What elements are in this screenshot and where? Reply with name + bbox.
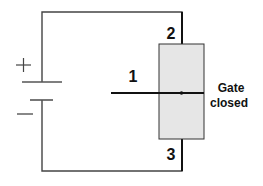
terminal-3-label: 3: [167, 146, 176, 163]
terminal-2-label: 2: [167, 25, 176, 42]
junction-dot: [180, 91, 184, 95]
circuit-diagram: 1 2 3 Gate closed: [0, 0, 263, 186]
gate-label-line2: closed: [210, 96, 248, 110]
terminal-1-label: 1: [129, 68, 138, 85]
gate-label-line1: Gate: [218, 81, 245, 95]
plus-icon: [16, 58, 31, 72]
battery-icon: [22, 82, 62, 100]
